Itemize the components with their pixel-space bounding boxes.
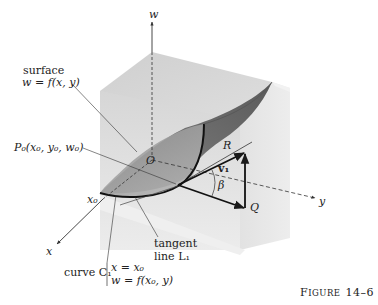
- p0-label: P₀(x₀, y₀, w₀): [13, 141, 83, 154]
- figure-14-6-diagram: w x y O β v₁ R Q surface w = f(x, y) P₀(…: [0, 0, 378, 305]
- curve-label-prefix: curve C₁: [64, 266, 112, 279]
- figure-caption: FIGURE14–6: [300, 286, 374, 299]
- tangent-label-line1: tangent: [154, 237, 198, 250]
- tangent-label-line2: line L₁: [154, 250, 190, 263]
- origin-label: O: [146, 154, 155, 167]
- beta-label: β: [217, 179, 224, 192]
- R-label: R: [222, 139, 231, 152]
- y-axis-label: y: [318, 195, 326, 208]
- Q-label: Q: [250, 201, 259, 214]
- curve-eq2: w = f(x₀, y): [111, 274, 173, 287]
- x0-label: x₀: [87, 193, 98, 206]
- v1-label: v₁: [217, 162, 229, 175]
- curve-eq1: x = x₀: [111, 261, 145, 274]
- x-axis-label: x: [46, 245, 53, 258]
- w-axis-label: w: [149, 8, 159, 21]
- surface-label-line2: w = f(x, y): [22, 76, 80, 89]
